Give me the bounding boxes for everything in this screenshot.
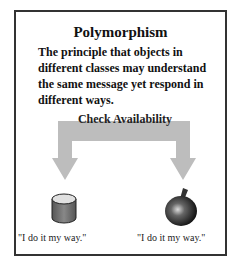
- message-arrows: [0, 0, 236, 264]
- message-label: Check Availability: [60, 112, 190, 127]
- apple-response: "I do it my way.": [137, 232, 205, 243]
- cylinder-icon: [52, 194, 76, 223]
- apple-icon: [165, 188, 197, 226]
- cylinder-response: "I do it my way.": [18, 232, 86, 243]
- split-arrow: [52, 121, 196, 180]
